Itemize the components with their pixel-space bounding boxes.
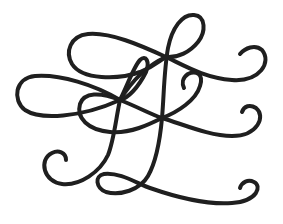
right-small-curl-stroke <box>162 73 201 119</box>
flourish-canvas <box>0 0 283 224</box>
flourish-ornament-icon <box>0 0 283 224</box>
